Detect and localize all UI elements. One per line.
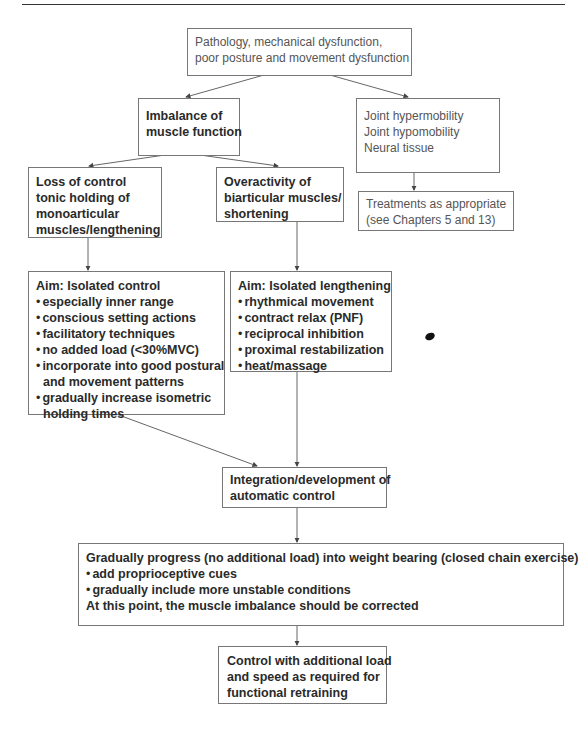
node-text: Overactivity of <box>224 174 336 190</box>
node-footer: At this point, the muscle imbalance shou… <box>86 598 556 614</box>
node-text: (see Chapters 5 and 13) <box>366 212 506 228</box>
node-text: monoarticular <box>36 206 154 222</box>
bullet-item: no added load (<30%MVC) <box>36 342 217 358</box>
node-text: Pathology, mechanical dysfunction, <box>195 34 404 50</box>
node-text: muscle function <box>146 124 232 140</box>
node-joint: Joint hypermobility Joint hypomobility N… <box>356 98 500 173</box>
node-text: functional retraining <box>227 685 379 701</box>
bullet-item: incorporate into good postural <box>36 358 217 374</box>
node-text: muscles/lengthening <box>36 222 154 238</box>
node-title: Aim: Isolated control <box>36 278 217 294</box>
node-title: Aim: Isolated lengthening <box>238 278 384 294</box>
bullet-item: especially inner range <box>36 294 217 310</box>
node-text: automatic control <box>230 488 379 504</box>
header-rule <box>22 4 565 5</box>
bullet-item: add proprioceptive cues <box>86 566 556 582</box>
node-imbalance: Imbalance of muscle function <box>138 98 240 156</box>
bullet-item: facilitatory techniques <box>36 326 217 342</box>
node-progress: Gradually progress (no additional load) … <box>78 543 564 626</box>
node-final: Control with additional load and speed a… <box>218 646 387 704</box>
node-treatments: Treatments as appropriate (see Chapters … <box>358 191 514 231</box>
node-text: Treatments as appropriate <box>366 196 506 212</box>
node-text: Imbalance of <box>146 108 232 124</box>
node-text: Neural tissue <box>364 140 492 156</box>
node-aim-isolated-lengthening: Aim: Isolated lengthening rhythmical mov… <box>230 271 392 372</box>
node-text: biarticular muscles/ <box>224 190 336 206</box>
node-text: Joint hypermobility <box>364 108 492 124</box>
node-text: Joint hypomobility <box>364 124 492 140</box>
node-text: Control with additional load <box>227 653 379 669</box>
bullet-continuation: holding times <box>36 406 217 422</box>
node-overactivity: Overactivity of biarticular muscles/ sho… <box>216 167 344 222</box>
bullet-continuation: and movement patterns <box>36 374 217 390</box>
node-text: Integration/development of <box>230 472 379 488</box>
speck-artifact <box>424 331 436 342</box>
bullet-item: gradually include more unstable conditio… <box>86 582 556 598</box>
bullet-item: rhythmical movement <box>238 294 384 310</box>
bullet-item: proximal restabilization <box>238 342 384 358</box>
bullet-item: contract relax (PNF) <box>238 310 384 326</box>
node-text: poor posture and movement dysfunction <box>195 50 404 66</box>
bullet-item: reciprocal inhibition <box>238 326 384 342</box>
node-aim-isolated-control: Aim: Isolated control especially inner r… <box>28 271 225 415</box>
node-title: Gradually progress (no additional load) … <box>86 550 556 566</box>
node-text: tonic holding of <box>36 190 154 206</box>
node-text: shortening <box>224 206 336 222</box>
bullet-item: heat/massage <box>238 358 384 374</box>
node-integration: Integration/development of automatic con… <box>222 467 387 508</box>
bullet-item: gradually increase isometric <box>36 390 217 406</box>
node-loss-of-control: Loss of control tonic holding of monoart… <box>28 167 162 238</box>
bullet-item: conscious setting actions <box>36 310 217 326</box>
node-text: Loss of control <box>36 174 154 190</box>
node-text: and speed as required for <box>227 669 379 685</box>
node-pathology: Pathology, mechanical dysfunction, poor … <box>187 28 412 76</box>
